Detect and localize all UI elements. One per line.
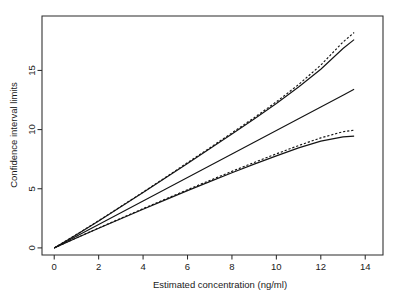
x-tick-label: 12 <box>316 261 327 272</box>
x-axis-title: Estimated concentration (ng/ml) <box>153 279 287 290</box>
y-tick-label: 0 <box>26 245 37 250</box>
x-tick-label: 4 <box>140 261 145 272</box>
y-tick-label: 5 <box>26 186 37 191</box>
x-axis-ticks <box>54 255 365 260</box>
x-tick-label: 10 <box>271 261 282 272</box>
curve-lower-limit-dashed- <box>54 130 354 248</box>
x-tick-label: 0 <box>52 261 57 272</box>
curve-upper-limit-solid- <box>54 40 354 248</box>
curve-estimate-solid-straight- <box>54 89 354 248</box>
y-axis-tick-labels: 051015 <box>26 65 37 250</box>
plot-frame <box>42 16 383 255</box>
chart-container: 02468101214 051015 Estimated concentrati… <box>0 0 406 296</box>
x-tick-label: 8 <box>229 261 234 272</box>
y-tick-label: 15 <box>26 65 37 76</box>
x-tick-label: 14 <box>360 261 371 272</box>
confidence-interval-plot: 02468101214 051015 Estimated concentrati… <box>0 0 406 296</box>
x-tick-label: 6 <box>185 261 190 272</box>
y-axis-ticks <box>38 70 43 247</box>
curve-upper-limit-dashed- <box>54 33 354 248</box>
x-tick-label: 2 <box>96 261 101 272</box>
axes-frame <box>42 16 383 255</box>
x-axis-tick-labels: 02468101214 <box>52 261 371 272</box>
data-curves <box>54 33 354 248</box>
y-tick-label: 10 <box>26 124 37 135</box>
y-axis-title: Confidence interval limits <box>8 82 19 188</box>
